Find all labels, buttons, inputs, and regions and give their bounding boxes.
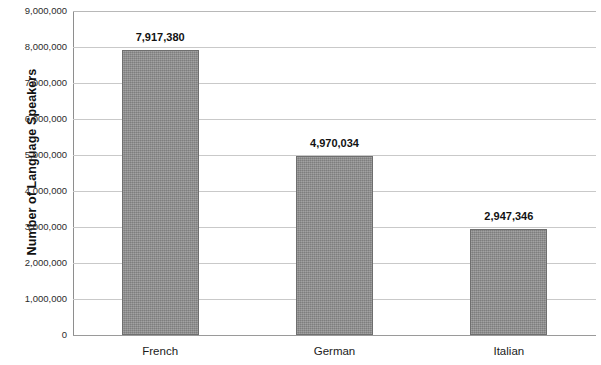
x-axis-category-label: German [275, 345, 395, 357]
y-axis-tick-label: 9,000,000 [0, 5, 67, 16]
gridline [73, 335, 596, 336]
bar-value-label: 2,947,346 [449, 210, 569, 222]
x-axis-category-label: French [100, 345, 220, 357]
bar [470, 229, 547, 335]
y-axis-tick-label: 2,000,000 [0, 257, 67, 268]
y-axis-tick-label: 3,000,000 [0, 221, 67, 232]
bar-value-label: 7,917,380 [100, 31, 220, 43]
plot-area [73, 11, 596, 335]
bar [122, 50, 199, 335]
y-axis-tick-label: 8,000,000 [0, 41, 67, 52]
bar-value-label: 4,970,034 [275, 137, 395, 149]
y-axis-tick-label: 5,000,000 [0, 149, 67, 160]
y-axis-tick-label: 7,000,000 [0, 77, 67, 88]
x-axis-category-label: Italian [449, 345, 569, 357]
y-axis-tick-label: 1,000,000 [0, 293, 67, 304]
y-axis-tick-label: 0 [0, 329, 67, 340]
gridline [73, 11, 596, 12]
y-axis-tick-label: 4,000,000 [0, 185, 67, 196]
y-axis-tick-label: 6,000,000 [0, 113, 67, 124]
bar [296, 156, 373, 335]
y-axis-title: Number of Language Speakers [25, 32, 39, 292]
bar-chart: Number of Language Speakers 01,000,0002,… [0, 0, 601, 365]
gridline [73, 47, 596, 48]
